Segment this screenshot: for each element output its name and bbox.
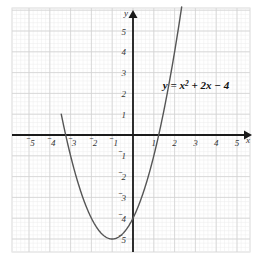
graph-svg: x y ⁻5⁻4⁻3⁻2⁻112345 54321⁻1⁻2⁻3⁻4⁻5 y = … (0, 0, 263, 266)
tick-label: 3 (121, 68, 127, 78)
tick-label: 2 (172, 138, 177, 148)
tick-label: 5 (235, 138, 240, 148)
equation-annotation: y = x2 + 2x − 4 (161, 79, 230, 92)
tick-label: 5 (122, 27, 127, 37)
tick-label: 1 (122, 110, 127, 120)
tick-label: 4 (122, 47, 127, 57)
y-axis-label: y (123, 8, 128, 18)
tick-label: 4 (214, 138, 219, 148)
equation-lead: y = x (161, 79, 186, 91)
equation-tail: + 2x − 4 (189, 79, 230, 91)
coordinate-plane-figure: x y ⁻5⁻4⁻3⁻2⁻112345 54321⁻1⁻2⁻3⁻4⁻5 y = … (0, 0, 263, 266)
tick-label: 2 (122, 89, 127, 99)
x-axis-label: x (245, 135, 250, 145)
tick-label: 3 (192, 138, 198, 148)
plot-panel (12, 8, 250, 252)
